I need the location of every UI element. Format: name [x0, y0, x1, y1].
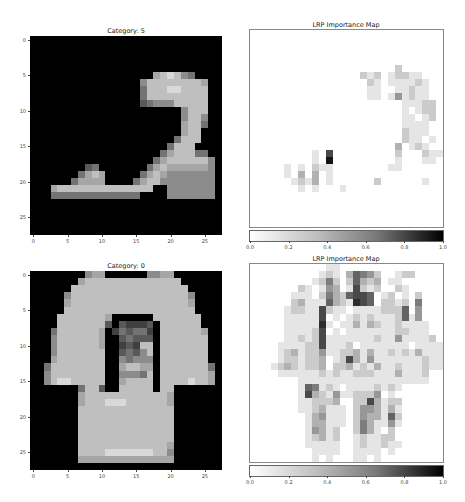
pixel-cell [57, 335, 64, 342]
pixel-cell [30, 335, 37, 342]
colorbar-tick-mark [366, 476, 367, 478]
pixel-cell [381, 128, 388, 135]
pixel-cell [160, 228, 167, 235]
pixel-cell [37, 185, 44, 192]
pixel-cell [133, 93, 140, 100]
pixel-cell [291, 185, 298, 192]
pixel-cell [346, 107, 353, 114]
pixel-cell [201, 157, 208, 164]
pixel-cell [333, 427, 340, 434]
pixel-cell [160, 64, 167, 71]
pixel-cell [298, 157, 305, 164]
pixel-cell [147, 356, 154, 363]
pixel-cell [326, 413, 333, 420]
pixel-cell [119, 328, 126, 335]
pixel-cell [422, 220, 429, 227]
pixel-cell [319, 363, 326, 370]
pixel-cell [360, 377, 367, 384]
pixel-cell [44, 399, 51, 406]
pixel-cell [381, 58, 388, 65]
pixel-cell [402, 370, 409, 377]
pixel-cell [99, 36, 106, 43]
pixel-cell [85, 43, 92, 50]
pixel-cell [436, 455, 443, 462]
pixel-cell [85, 79, 92, 86]
pixel-cell [436, 363, 443, 370]
pixel-cell [99, 50, 106, 57]
pixel-cell [340, 299, 347, 306]
pixel-cell [305, 164, 312, 171]
pixel-cell [340, 58, 347, 65]
pixel-cell [381, 420, 388, 427]
pixel-cell [147, 456, 154, 463]
pixel-cell [436, 157, 443, 164]
x-tick-mark [68, 470, 69, 472]
pixel-cell [99, 93, 106, 100]
pixel-cell [353, 427, 360, 434]
pixel-cell [346, 427, 353, 434]
pixel-cell [395, 164, 402, 171]
pixel-cell [409, 206, 416, 213]
pixel-cell [140, 413, 147, 420]
pixel-cell [395, 434, 402, 441]
pixel-cell [284, 199, 291, 206]
pixel-cell [353, 448, 360, 455]
pixel-cell [57, 392, 64, 399]
pixel-cell [271, 164, 278, 171]
pixel-cell [126, 371, 133, 378]
pixel-cell [99, 442, 106, 449]
pixel-cell [284, 128, 291, 135]
pixel-cell [278, 58, 285, 65]
pixel-cell [92, 107, 99, 114]
pixel-cell [264, 335, 271, 342]
pixel-cell [30, 192, 37, 199]
pixel-cell [160, 50, 167, 57]
pixel-cell [271, 413, 278, 420]
pixel-cell [201, 285, 208, 292]
pixel-cell [208, 413, 215, 420]
colorbar-tick-mark [327, 241, 328, 243]
pixel-cell [215, 79, 222, 86]
pixel-cell [133, 413, 140, 420]
pixel-cell [381, 100, 388, 107]
pixel-cell [92, 378, 99, 385]
pixel-cell [215, 128, 222, 135]
pixel-cell [264, 143, 271, 150]
pixel-cell [333, 335, 340, 342]
pixel-cell [353, 299, 360, 306]
pixel-cell [181, 434, 188, 441]
pixel-cell [71, 434, 78, 441]
pixel-cell [312, 285, 319, 292]
pixel-cell [388, 86, 395, 93]
pixel-cell [374, 72, 381, 79]
pixel-cell [85, 100, 92, 107]
pixel-cell [381, 441, 388, 448]
pixel-cell [271, 328, 278, 335]
pixel-cell [51, 214, 58, 221]
pixel-cell [333, 264, 340, 271]
pixel-cell [30, 285, 37, 292]
pixel-cell [340, 427, 347, 434]
pixel-cell [264, 448, 271, 455]
pixel-cell [436, 37, 443, 44]
y-tick-label: 15 [20, 143, 26, 149]
pixel-cell [429, 128, 436, 135]
pixel-cell [333, 199, 340, 206]
pixel-cell [44, 36, 51, 43]
pixel-cell [201, 228, 208, 235]
pixel-cell [64, 307, 71, 314]
pixel-cell [188, 463, 195, 470]
pixel-cell [381, 30, 388, 37]
pixel-cell [112, 107, 119, 114]
pixel-cell [105, 321, 112, 328]
x-tick-mark [171, 470, 172, 472]
pixel-cell [57, 114, 64, 121]
pixel-cell [271, 335, 278, 342]
pixel-cell [78, 463, 85, 470]
pixel-cell [415, 271, 422, 278]
pixel-cell [422, 328, 429, 335]
pixel-cell [112, 378, 119, 385]
pixel-cell [422, 150, 429, 157]
pixel-cell [257, 278, 264, 285]
pixel-cell [436, 448, 443, 455]
